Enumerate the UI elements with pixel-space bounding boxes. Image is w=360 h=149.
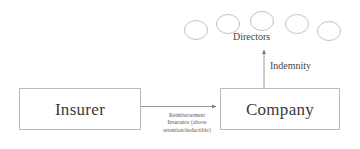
reimbursement-edge-label-line-1: Reimbursement (135, 112, 239, 119)
indemnity-edge-label: Indemnity (270, 60, 311, 71)
node-insurer-label: Insurer (55, 101, 105, 118)
director-circle-4 (286, 15, 309, 34)
director-circle-5 (318, 22, 341, 41)
node-insurer[interactable]: Insurer (19, 88, 141, 130)
director-circle-1 (185, 21, 208, 40)
node-company-label: Company (246, 101, 314, 118)
reimbursement-edge-label-line-2: Insurance (above (135, 119, 239, 126)
reimbursement-edge-label-line-3: retention/deductible) (135, 127, 239, 134)
director-circle-3 (251, 12, 274, 31)
diagram-canvas: Insurer Company Directors Indemnity Reim… (0, 0, 360, 149)
reimbursement-edge-label: Reimbursement Insurance (above retention… (135, 112, 239, 134)
directors-group-label: Directors (233, 31, 270, 42)
